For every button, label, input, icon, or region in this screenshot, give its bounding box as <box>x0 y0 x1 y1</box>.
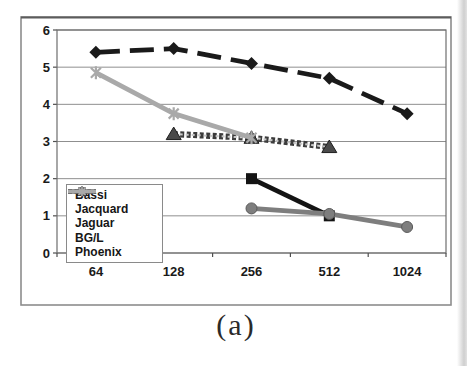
legend-label-jaguar: Jaguar <box>75 217 114 229</box>
y-tick-label: 6 <box>43 23 50 38</box>
legend-item-bg-l: BG/L <box>72 231 162 245</box>
y-tick-label: 1 <box>43 208 50 223</box>
y-tick-label: 2 <box>43 171 50 186</box>
legend-label-bg-l: BG/L <box>75 232 104 244</box>
circle-marker-icon <box>246 203 257 214</box>
legend-label-jacquard: Jacquard <box>75 203 128 215</box>
y-tick-label: 4 <box>43 97 51 112</box>
circle-marker-icon <box>402 221 413 232</box>
figure-caption: (a) <box>20 308 452 342</box>
y-tick-label: 0 <box>43 246 50 261</box>
legend-label-phoenix: Phoenix <box>75 246 122 258</box>
x-tick-label: 64 <box>89 264 104 279</box>
circle-marker-icon <box>324 208 335 219</box>
x-tick-label: 256 <box>241 264 263 279</box>
y-tick-label: 5 <box>43 60 50 75</box>
legend-item-jaguar: Jaguar <box>72 216 162 230</box>
x-tick-label: 512 <box>318 264 340 279</box>
x-tick-label: 128 <box>163 264 185 279</box>
page-scan-edge-shading <box>457 0 467 366</box>
figure-panel: Gflops/Processor Processors 012345664128… <box>20 16 452 306</box>
legend-item-jacquard: Jacquard <box>72 202 162 216</box>
legend-sample-phoenix <box>67 185 97 198</box>
chart-legend: BassiJacquardJaguarBG/LPhoenix <box>66 184 163 263</box>
square-marker-icon <box>246 173 257 184</box>
x-tick-label: 1024 <box>393 264 423 279</box>
y-tick-label: 3 <box>43 134 50 149</box>
legend-item-phoenix: Phoenix <box>72 245 162 259</box>
